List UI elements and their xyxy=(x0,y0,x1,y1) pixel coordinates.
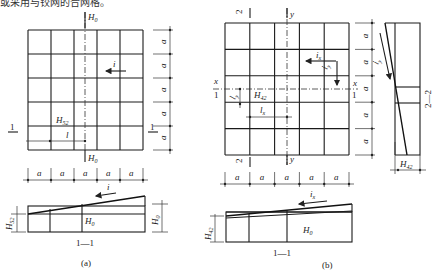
dim-dot xyxy=(371,48,373,50)
x-axis-label-right: x xyxy=(352,78,357,88)
section-title-b: 1—1 xyxy=(273,248,291,258)
section-h0-label-a: H0 xyxy=(84,216,95,227)
dim-dot xyxy=(323,183,325,185)
dim-dot xyxy=(224,183,226,185)
length-dim-dot-left xyxy=(49,140,51,142)
dim-dot xyxy=(169,77,171,79)
figure-a: H0 H0 i H52 l 1 1 aaaaa aaaaa i xyxy=(4,12,173,268)
dim-dot xyxy=(73,179,75,181)
section-h0-label-b: H0 xyxy=(302,225,313,236)
y-axis-label-top: y xyxy=(289,9,294,19)
lx-dot-left xyxy=(249,116,251,118)
section-2-2: iy 2—2 H42 xyxy=(370,23,433,174)
dim-dot xyxy=(169,101,171,103)
length-label: l xyxy=(66,130,69,140)
right-dimensions-a: aaaaa xyxy=(153,26,173,154)
dim-label-a: a xyxy=(60,168,65,178)
dim-label-a: a xyxy=(260,172,265,182)
dim-dot xyxy=(142,179,144,181)
section-1-1-a: i H0 H52 H0 1—1 xyxy=(4,182,168,248)
section-slope-label-b: ix xyxy=(310,189,316,200)
lx-label: lx xyxy=(260,105,266,116)
dim-dot xyxy=(169,149,171,151)
dim-dot xyxy=(348,183,350,185)
diagram-canvas: H0 H0 i H52 l 1 1 aaaaa aaaaa i xyxy=(0,0,438,278)
section-h0-right-label: H0 xyxy=(150,216,161,227)
h42-label: H42 xyxy=(253,90,267,101)
bottom-dimensions-b: aaaaa xyxy=(220,172,354,187)
slope-x-label: ix xyxy=(316,50,322,61)
lx-dot-right xyxy=(286,116,288,118)
h52-label: H52 xyxy=(55,115,69,126)
figure-caption-a: (a) xyxy=(81,258,91,268)
dim-label-a: a xyxy=(158,111,168,116)
dim-label-a: a xyxy=(158,63,168,68)
dim-dot xyxy=(50,179,52,181)
dim-label-a: a xyxy=(360,112,370,117)
dim-dot xyxy=(273,183,275,185)
dim-label-a: a xyxy=(334,172,339,182)
dim-dot xyxy=(119,179,121,181)
section-2-2-title: 2—2 xyxy=(423,90,433,108)
slope-y-label: iy xyxy=(319,62,331,71)
dim-label-a: a xyxy=(235,172,240,182)
dim-label-a: a xyxy=(158,135,168,140)
dim-label-a: a xyxy=(37,168,42,178)
dim-label-a: a xyxy=(83,168,88,178)
dim-dot xyxy=(371,127,373,129)
section-title-a: 1—1 xyxy=(76,238,94,248)
dim-label-a: a xyxy=(285,172,290,182)
y-axis-label-bottom: y xyxy=(289,154,294,164)
slope-label-a: i xyxy=(113,59,116,69)
length-dim-dot-right xyxy=(84,140,86,142)
plan-grid-a xyxy=(28,30,143,150)
section-slope-line-a xyxy=(28,196,145,214)
section-h42-label: H42 xyxy=(203,228,214,242)
dim-dot xyxy=(27,179,29,181)
figure-b: y y 2 2 x x 1 1 ix iy H42 ly lx aaaaa aa… xyxy=(203,8,433,270)
ly-dot-bottom xyxy=(239,103,241,105)
dim-dot xyxy=(96,179,98,181)
dim-label-a: a xyxy=(360,60,370,65)
dim-label-a: a xyxy=(360,86,370,91)
section-2-2-slope xyxy=(385,23,407,155)
h0-top-label: H0 xyxy=(87,12,98,23)
dim-dot xyxy=(169,125,171,127)
section-mark-left: 1 xyxy=(10,122,15,132)
section-slope-arrow-a xyxy=(96,193,116,196)
dim-dot xyxy=(371,75,373,77)
h0-bottom-label: H0 xyxy=(87,153,98,164)
section-2-2-h42-label: H42 xyxy=(399,159,413,170)
section-1-left-label: 1 xyxy=(214,90,219,100)
dim-dot xyxy=(169,29,171,31)
dim-label-a: a xyxy=(158,39,168,44)
section-h52-label: H52 xyxy=(4,218,15,232)
section-2-bottom-label: 2 xyxy=(234,159,244,164)
section-2-top-label: 2 xyxy=(234,10,244,15)
figure-caption-b: (b) xyxy=(322,260,333,270)
section-mark-right: 1 xyxy=(150,122,155,132)
section-2-2-outline xyxy=(385,23,420,155)
ly-dot-top xyxy=(239,88,241,90)
dim-dot xyxy=(371,154,373,156)
dim-label-a: a xyxy=(309,172,314,182)
dim-dot xyxy=(371,101,373,103)
x-axis-label-left: x xyxy=(213,76,218,86)
section-2-2-dim-dot-right xyxy=(419,169,421,171)
section-1-right-label: 1 xyxy=(352,90,357,100)
ly-label: ly xyxy=(227,92,239,101)
dim-dot xyxy=(169,53,171,55)
bottom-dimensions-a: aaaaa xyxy=(23,168,148,183)
dim-label-a: a xyxy=(158,87,168,92)
section-slope-label-a: i xyxy=(107,182,110,192)
section-2-2-dim-dot-left xyxy=(397,169,399,171)
dim-dot xyxy=(298,183,300,185)
dim-label-a: a xyxy=(360,33,370,38)
section-1-1-b: ix H0 H42 1—1 xyxy=(203,189,352,258)
dim-dot xyxy=(249,183,251,185)
dim-label-a: a xyxy=(360,139,370,144)
dim-label-a: a xyxy=(129,168,134,178)
section-slope-arrow-b xyxy=(299,201,327,204)
dim-label-a: a xyxy=(106,168,111,178)
dim-dot xyxy=(371,22,373,24)
